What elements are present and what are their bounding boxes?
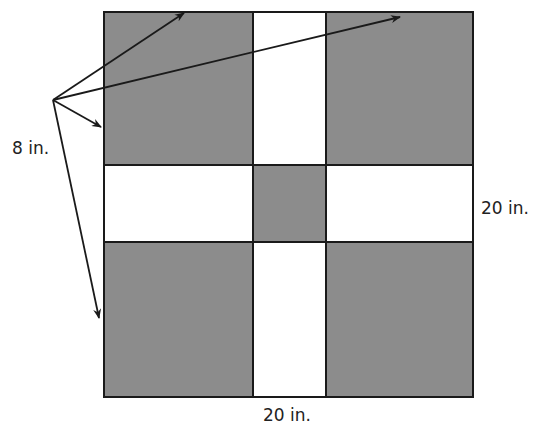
arrow-icon <box>53 100 101 127</box>
quilt-diagram: 8 in. 20 in. 20 in. <box>0 0 535 427</box>
middle-left-rect <box>104 165 253 242</box>
top-left-square <box>104 12 253 165</box>
bottom-right-square <box>326 242 473 397</box>
top-right-square <box>326 12 473 165</box>
center-square <box>253 165 326 242</box>
arrow-icon <box>53 100 99 318</box>
grid-cells <box>104 12 473 397</box>
corner-size-label: 8 in. <box>12 138 49 158</box>
bottom-middle-rect <box>253 242 326 397</box>
bottom-side-label: 20 in. <box>263 405 311 425</box>
bottom-left-square <box>104 242 253 397</box>
middle-right-rect <box>326 165 473 242</box>
right-side-label: 20 in. <box>481 198 529 218</box>
top-middle-rect <box>253 12 326 165</box>
